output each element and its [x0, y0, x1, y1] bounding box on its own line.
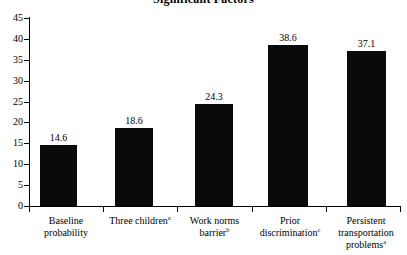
y-tick-15	[24, 143, 29, 144]
bar-persistent-transportation-problems	[347, 51, 386, 206]
y-tick-label-35: 35	[1, 55, 23, 65]
y-tick-label-15: 15	[1, 138, 23, 148]
category-footnote-marker: c	[317, 226, 320, 233]
bar-chart-figure: Significant Factors 45 40 35 30 25 20 15…	[0, 0, 407, 255]
category-footnote-marker: a	[168, 214, 171, 221]
y-tick-20	[24, 122, 29, 123]
bar-work-norms-barrier	[195, 104, 233, 206]
y-tick-25	[24, 102, 29, 103]
y-tick-label-5: 5	[1, 180, 23, 190]
bar-value-label-1: 18.6	[115, 115, 153, 126]
category-label-line-2: probability	[29, 227, 103, 239]
category-label-persistent-transportation-problems: Persistent transportation problemsa	[326, 215, 406, 251]
x-tick-4	[326, 207, 327, 212]
y-tick-label-45: 45	[1, 13, 23, 23]
category-label-line-2: barrier	[200, 227, 227, 238]
bar-value-label-3: 38.6	[268, 32, 308, 43]
y-tick-label-30: 30	[1, 76, 23, 86]
bar-prior-discrimination	[268, 45, 308, 206]
x-tick-1	[103, 207, 104, 212]
y-tick-35	[24, 60, 29, 61]
category-label-line-1: Work norms	[177, 215, 252, 227]
bar-value-label-2: 24.3	[195, 91, 233, 102]
category-footnote-marker: b	[226, 226, 229, 233]
category-label-line-1: Three children	[109, 215, 168, 226]
x-tick-3	[252, 207, 253, 212]
x-tick-5	[400, 207, 401, 212]
category-label-line-2: transportation	[326, 227, 406, 239]
category-label-line-1: Persistent	[326, 215, 406, 227]
category-footnote-marker: a	[383, 238, 386, 245]
category-label-line-1: Baseline	[29, 215, 103, 227]
y-tick-30	[24, 81, 29, 82]
y-tick-45	[24, 18, 29, 19]
plot-area: 45 40 35 30 25 20 15 10 5 0 14.6 18.6 2	[0, 0, 407, 255]
bar-three-children	[115, 128, 153, 206]
bar-baseline-probability	[40, 145, 77, 206]
category-label-work-norms-barrier: Work norms barrierb	[177, 215, 252, 239]
y-tick-10	[24, 164, 29, 165]
x-tick-0	[29, 207, 30, 212]
y-tick-label-40: 40	[1, 34, 23, 44]
y-tick-label-25: 25	[1, 97, 23, 107]
bar-value-label-0: 14.6	[40, 132, 77, 143]
category-label-baseline-probability: Baseline probability	[29, 215, 103, 239]
y-tick-40	[24, 39, 29, 40]
y-axis-line	[29, 17, 30, 207]
category-label-line-3: problems	[346, 239, 383, 250]
category-label-prior-discrimination: Prior discriminationc	[249, 215, 331, 239]
category-label-three-children: Three childrena	[100, 215, 180, 227]
category-label-line-2: discrimination	[260, 227, 318, 238]
y-tick-label-10: 10	[1, 159, 23, 169]
x-tick-2	[177, 207, 178, 212]
y-tick-label-0: 0	[1, 201, 23, 211]
y-tick-label-20: 20	[1, 117, 23, 127]
y-tick-5	[24, 185, 29, 186]
bar-value-label-4: 37.1	[347, 38, 386, 49]
x-axis-line	[29, 206, 401, 207]
